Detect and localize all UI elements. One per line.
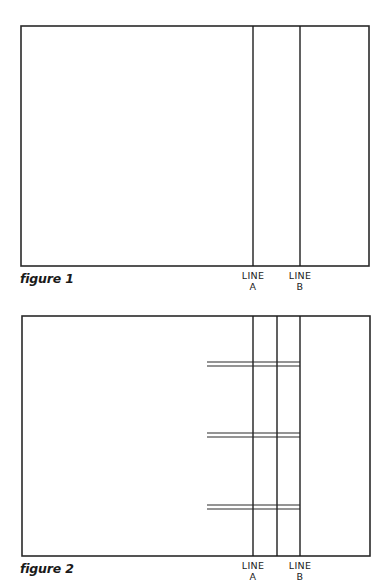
line-label-word: LINE	[285, 270, 315, 281]
figure-2	[22, 316, 370, 556]
figure-frame	[21, 26, 369, 266]
diagram-canvas	[0, 0, 389, 584]
line-label-b: LINEB	[285, 560, 315, 582]
line-label-a: LINEA	[238, 560, 268, 582]
figure-caption: figure 2	[20, 561, 74, 576]
line-label-a: LINEA	[238, 270, 268, 292]
figure-1	[21, 26, 369, 266]
figure-frame	[22, 316, 370, 556]
line-label-letter: A	[238, 571, 268, 582]
line-label-letter: B	[285, 281, 315, 292]
line-label-b: LINEB	[285, 270, 315, 292]
line-label-word: LINE	[285, 560, 315, 571]
line-label-letter: A	[238, 281, 268, 292]
figure-caption: figure 1	[20, 271, 74, 286]
line-label-word: LINE	[238, 560, 268, 571]
line-label-letter: B	[285, 571, 315, 582]
line-label-word: LINE	[238, 270, 268, 281]
